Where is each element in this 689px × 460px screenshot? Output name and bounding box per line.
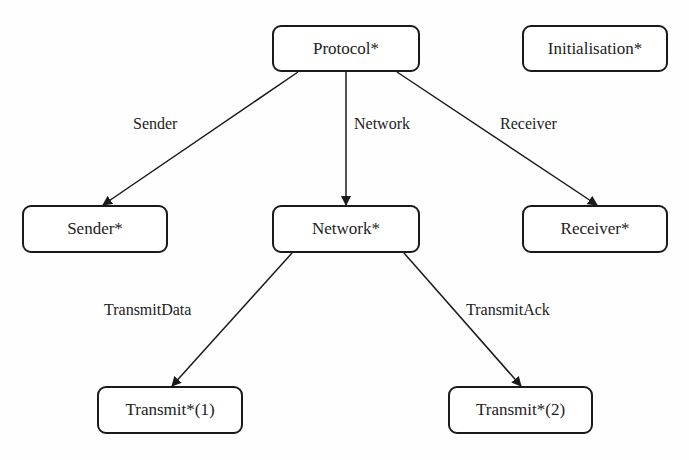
node-network[interactable]: Network* (272, 205, 420, 253)
diagram-canvas: Protocol* Initialisation* Sender* Networ… (0, 0, 689, 460)
node-protocol[interactable]: Protocol* (272, 25, 420, 72)
node-transmit-1[interactable]: Transmit*(1) (97, 386, 243, 434)
edge-label-transmit-data: TransmitData (104, 301, 191, 319)
edge-network-transmit1 (172, 253, 292, 386)
edge-protocol-sender (103, 72, 298, 205)
node-initialisation[interactable]: Initialisation* (522, 25, 668, 72)
node-protocol-label: Protocol* (313, 39, 379, 59)
node-sender-label: Sender* (67, 219, 123, 239)
edge-label-transmit-ack: TransmitAck (466, 301, 550, 319)
edge-protocol-receiver (397, 72, 597, 205)
node-network-label: Network* (312, 219, 380, 239)
edge-label-sender: Sender (133, 115, 177, 133)
node-receiver-label: Receiver* (561, 219, 630, 239)
node-transmit-2-label: Transmit*(2) (476, 400, 565, 420)
edge-label-network: Network (354, 115, 410, 133)
node-sender[interactable]: Sender* (22, 205, 168, 253)
node-receiver[interactable]: Receiver* (522, 205, 668, 253)
edge-network-transmit2 (404, 253, 521, 386)
node-initialisation-label: Initialisation* (548, 39, 642, 59)
edge-label-receiver: Receiver (500, 115, 557, 133)
node-transmit-2[interactable]: Transmit*(2) (448, 386, 593, 434)
node-transmit-1-label: Transmit*(1) (125, 400, 214, 420)
